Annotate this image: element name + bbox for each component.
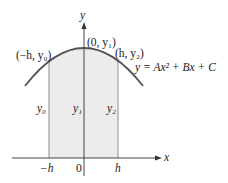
point-label-right: (h, y₂) bbox=[115, 48, 144, 60]
x-axis-arrow-icon bbox=[155, 156, 162, 161]
tick-label-zero: 0 bbox=[76, 163, 82, 175]
point-label-center: (0, y₁) bbox=[87, 37, 116, 49]
ordinate-label-y2: y₂ bbox=[107, 103, 116, 115]
diagram-graphics bbox=[0, 0, 228, 183]
equation-label: y = Ax² + Bx + C bbox=[135, 62, 216, 74]
ordinate-label-y1: y₁ bbox=[73, 103, 82, 115]
tick-label-h: h bbox=[115, 163, 121, 175]
point-label-left: (−h, y₀) bbox=[16, 50, 51, 62]
x-axis-label: x bbox=[164, 152, 169, 164]
y-axis-label: y bbox=[80, 10, 85, 22]
ordinate-label-y0: y₀ bbox=[37, 103, 46, 115]
diagram: y x (−h, y₀) (0, y₁) (h, y₂) y = Ax² + B… bbox=[0, 0, 228, 183]
y-axis-arrow-icon bbox=[82, 22, 87, 29]
tick-label-neg-h: −h bbox=[40, 163, 54, 175]
